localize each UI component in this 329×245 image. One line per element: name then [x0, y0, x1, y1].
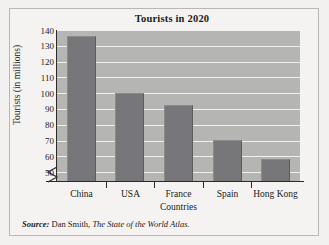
y-tick-label: 90 [28, 105, 54, 114]
x-tick [106, 182, 107, 188]
x-tick [203, 182, 204, 188]
x-axis-title: Countries [57, 202, 300, 212]
y-tick-label: 140 [28, 27, 54, 36]
x-tick-label-china: China [57, 189, 106, 199]
bar-spain [213, 140, 242, 181]
source-label: Source: [22, 219, 49, 229]
y-tick-label: 60 [28, 153, 54, 162]
y-tick-label: 120 [28, 58, 54, 67]
x-tick-label-hong-kong: Hong Kong [251, 189, 300, 199]
source-note: Source: Dan Smith, The State of the Worl… [22, 219, 190, 229]
chart-figure: Tourists in 2020 Tourists (in millions) … [0, 0, 329, 245]
source-author: Dan Smith, [52, 219, 91, 229]
y-tick-label: 80 [28, 121, 54, 130]
x-tick [154, 182, 155, 188]
x-axis-line [46, 181, 304, 182]
plot-area [57, 31, 300, 181]
y-tick-label: 70 [28, 137, 54, 146]
y-tick-label: 110 [28, 74, 54, 83]
x-tick [251, 182, 252, 188]
axis-break-icon [45, 166, 61, 184]
y-axis-title: Tourists (in millions) [12, 16, 22, 154]
y-tick-label: 130 [28, 42, 54, 51]
y-tick-label: 100 [28, 90, 54, 99]
y-axis-tick-labels: 5060708090100110120130140 [26, 31, 54, 181]
chart-title: Tourists in 2020 [36, 13, 308, 24]
bar-china [67, 36, 96, 181]
x-tick-label-spain: Spain [203, 189, 252, 199]
y-axis-line [56, 30, 57, 182]
bar-hong-kong [261, 159, 290, 181]
source-work: The State of the World Atlas. [92, 219, 189, 229]
x-tick-label-usa: USA [106, 189, 155, 199]
x-tick-label-france: France [154, 189, 203, 199]
bar-france [164, 105, 193, 181]
bar-usa [115, 93, 144, 181]
